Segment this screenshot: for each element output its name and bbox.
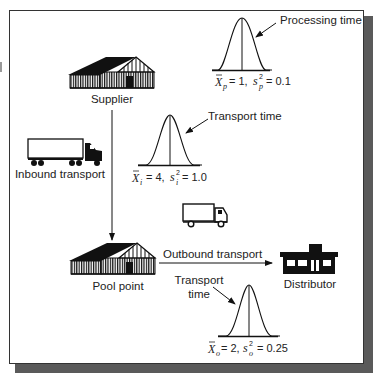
svg-text:X: X — [214, 75, 223, 89]
pool-point-node: Pool point — [69, 243, 155, 292]
inbound-transport-pointer-arrow — [186, 119, 208, 133]
semi-truck-icon — [28, 139, 102, 166]
svg-text:p: p — [222, 82, 227, 91]
svg-text:s: s — [170, 170, 175, 184]
supplier-node: Supplier — [68, 57, 154, 105]
warehouse-icon — [69, 243, 155, 274]
svg-text:o: o — [216, 349, 220, 358]
supply-chain-diagram: Supplier Inbound transport Processing ti… — [0, 0, 376, 377]
processing-formula: X p = 1, s 2 p = 0.1 — [214, 73, 291, 91]
svg-text:= 1,: = 1, — [229, 75, 248, 87]
distributor-label: Distributor — [284, 278, 337, 290]
svg-text:p: p — [258, 82, 263, 91]
outbound-transport-time-distribution: Transport time X o = 2, s 2 o = 0.25 — [175, 274, 288, 358]
inbound-transport-formula: X i = 4, s 2 i = 1.0 — [131, 169, 207, 187]
svg-text:2: 2 — [249, 340, 253, 347]
outbound-transport-pointer-arrow — [213, 287, 235, 304]
box-truck-icon — [183, 204, 227, 227]
inbound-transport-link: Inbound transport — [15, 139, 106, 180]
outbound-transport-label: Outbound transport — [163, 248, 263, 260]
inbound-transport-time-distribution: Transport time X i = 4, s 2 i = 1.0 — [131, 110, 282, 187]
svg-text:= 1.0: = 1.0 — [182, 171, 207, 183]
processing-time-label: Processing time — [280, 14, 362, 26]
svg-text:= 0.1: = 0.1 — [266, 75, 291, 87]
store-icon — [280, 244, 338, 274]
svg-text:= 4,: = 4, — [146, 171, 165, 183]
svg-text:i: i — [176, 178, 178, 187]
svg-text:i: i — [140, 178, 142, 187]
inbound-transport-label: Inbound transport — [15, 168, 106, 180]
svg-text:2: 2 — [176, 169, 180, 176]
svg-text:= 0.25: = 0.25 — [257, 342, 288, 354]
pool-point-label: Pool point — [92, 280, 144, 292]
processing-time-distribution: Processing time X p = 1, s 2 p = 0.1 — [212, 14, 362, 91]
distributor-node: Distributor — [280, 244, 338, 290]
svg-text:X: X — [131, 171, 140, 185]
outbound-transport-formula: X o = 2, s 2 o = 0.25 — [207, 340, 288, 358]
inbound-transport-time-label: Transport time — [208, 110, 282, 122]
supplier-label: Supplier — [91, 93, 133, 105]
svg-text:2: 2 — [259, 73, 263, 80]
outbound-transport-time-label-line1: Transport — [175, 274, 225, 286]
processing-pointer-arrow — [256, 23, 276, 37]
svg-text:X: X — [207, 342, 216, 356]
svg-text:= 2,: = 2, — [221, 342, 240, 354]
svg-text:s: s — [243, 341, 248, 355]
svg-text:s: s — [253, 74, 258, 88]
warehouse-icon — [68, 57, 154, 88]
outbound-transport-time-label-line2: time — [188, 288, 210, 300]
svg-text:o: o — [249, 349, 253, 358]
